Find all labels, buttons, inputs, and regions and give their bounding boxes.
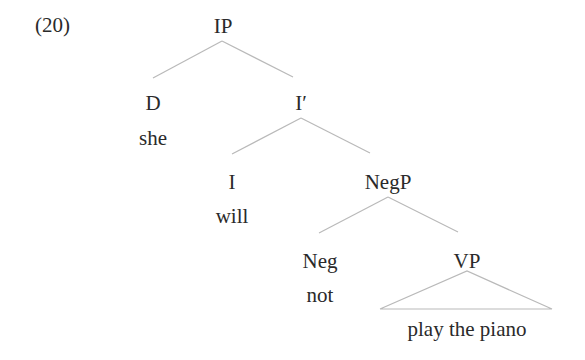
node-negp: NegP [365, 172, 412, 193]
word-she: she [139, 128, 167, 149]
node-d: D [145, 93, 160, 114]
word-will: will [216, 206, 249, 227]
tree-branches [0, 0, 585, 360]
vp-triangle [380, 271, 552, 309]
example-number: (20) [35, 15, 70, 36]
syntax-tree-diagram: (20) IP D she I′ I will NegP Neg not VP … [0, 0, 585, 360]
branch-ip-ibar [222, 41, 293, 77]
branch-ip-d [153, 41, 222, 78]
word-not: not [307, 285, 334, 306]
node-vp: VP [454, 251, 481, 272]
branch-negp-neg [319, 197, 388, 233]
node-ip: IP [214, 16, 233, 37]
node-i: I [229, 172, 236, 193]
vp-yield: play the piano [408, 319, 527, 340]
branch-negp-vp [388, 197, 458, 232]
node-ibar: I′ [295, 93, 307, 114]
node-neg: Neg [303, 251, 338, 272]
branch-ibar-negp [301, 118, 370, 153]
branch-ibar-i [232, 118, 301, 154]
